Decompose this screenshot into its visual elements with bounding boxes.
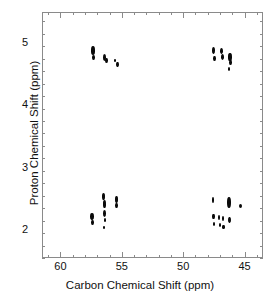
x-tick-label: 55: [107, 260, 137, 272]
cross-peak: [213, 222, 215, 226]
y-minor-tick: [42, 34, 45, 35]
y-minor-tick: [42, 171, 45, 172]
x-minor-tick: [134, 255, 135, 258]
cross-peak: [103, 200, 106, 208]
y-tick-right: [260, 34, 263, 35]
y-tick-label: 2: [0, 223, 28, 235]
x-minor-tick: [220, 255, 221, 258]
x-tick-top: [257, 12, 258, 15]
x-tick-top: [97, 12, 98, 15]
cross-peak: [91, 220, 94, 225]
x-minor-tick: [232, 255, 233, 258]
x-tick-top: [60, 12, 61, 18]
x-axis-title: Carbon Chemical Shift (ppm): [0, 279, 280, 291]
y-tick-right: [260, 221, 263, 222]
x-tick-top: [48, 12, 49, 15]
cross-peak-layer: [43, 13, 262, 257]
x-tick-top: [73, 12, 74, 15]
y-minor-tick: [42, 96, 45, 97]
cross-peak: [222, 225, 224, 229]
y-minor-tick: [42, 233, 45, 234]
y-tick-label: 4: [0, 98, 28, 110]
y-minor-tick: [42, 196, 45, 197]
y-tick-right: [260, 146, 263, 147]
y-minor-tick: [42, 133, 45, 134]
y-tick-right: [260, 46, 263, 47]
cross-peak: [115, 203, 118, 208]
cross-peak: [103, 226, 105, 229]
x-tick-top: [146, 12, 147, 15]
x-minor-tick: [146, 255, 147, 258]
cross-peak: [90, 213, 93, 220]
y-minor-tick: [42, 109, 45, 110]
x-minor-tick: [257, 255, 258, 258]
y-tick-label: 5: [0, 36, 28, 48]
x-tick-top: [85, 12, 86, 15]
y-minor-tick: [42, 21, 45, 22]
cross-peak: [104, 218, 107, 223]
cross-peak: [213, 56, 216, 61]
x-tick-top: [195, 12, 196, 15]
y-tick-right: [260, 158, 263, 159]
x-minor-tick: [73, 255, 74, 258]
y-minor-tick: [42, 246, 45, 247]
cross-peak: [227, 197, 231, 208]
x-tick-top: [110, 12, 111, 15]
cross-peak: [102, 193, 105, 200]
cross-peak: [218, 215, 220, 220]
y-tick-right: [260, 121, 263, 122]
cross-peak: [220, 48, 223, 54]
cross-peak: [228, 217, 231, 224]
x-tick-top: [220, 12, 221, 15]
x-minor-tick: [97, 255, 98, 258]
y-minor-tick: [42, 158, 45, 159]
x-major-tick: [60, 252, 61, 258]
y-minor-tick: [42, 46, 45, 47]
y-minor-tick: [42, 221, 45, 222]
x-minor-tick: [48, 255, 49, 258]
y-minor-tick: [42, 146, 45, 147]
x-tick-top: [232, 12, 233, 15]
y-minor-tick: [42, 208, 45, 209]
x-minor-tick: [159, 255, 160, 258]
cross-peak: [222, 216, 224, 221]
cross-peak: [221, 54, 224, 60]
y-tick-right: [260, 59, 263, 60]
y-tick-right: [260, 208, 263, 209]
cross-peak: [212, 214, 214, 219]
cross-peak: [229, 60, 232, 65]
plot-area: [42, 12, 263, 258]
cross-peak: [228, 67, 231, 72]
nmr-spectrum-figure: 605550455432 Carbon Chemical Shift (ppm)…: [0, 0, 280, 304]
x-tick-label: 45: [230, 260, 260, 272]
cross-peak: [239, 204, 242, 209]
cross-peak: [212, 197, 215, 203]
x-minor-tick: [195, 255, 196, 258]
x-tick-top: [122, 12, 123, 18]
y-tick-right: [260, 171, 263, 172]
y-tick-right: [260, 84, 263, 85]
x-tick-label: 60: [45, 260, 75, 272]
y-minor-tick: [42, 183, 45, 184]
x-minor-tick: [110, 255, 111, 258]
y-tick-right: [260, 96, 263, 97]
y-minor-tick: [42, 84, 45, 85]
cross-peak: [212, 47, 215, 54]
x-tick-top: [171, 12, 172, 15]
y-tick-right: [260, 258, 263, 259]
x-minor-tick: [208, 255, 209, 258]
cross-peak: [91, 46, 95, 55]
y-tick-right: [260, 109, 263, 110]
x-major-tick: [122, 252, 123, 258]
x-tick-top: [134, 12, 135, 15]
y-tick-right: [260, 233, 263, 234]
x-major-tick: [183, 252, 184, 258]
x-tick-top: [208, 12, 209, 15]
cross-peak: [116, 62, 119, 68]
y-tick-right: [260, 196, 263, 197]
x-tick-top: [245, 12, 246, 18]
cross-peak: [219, 223, 221, 227]
y-tick-right: [260, 71, 263, 72]
cross-peak: [92, 55, 95, 60]
x-minor-tick: [171, 255, 172, 258]
